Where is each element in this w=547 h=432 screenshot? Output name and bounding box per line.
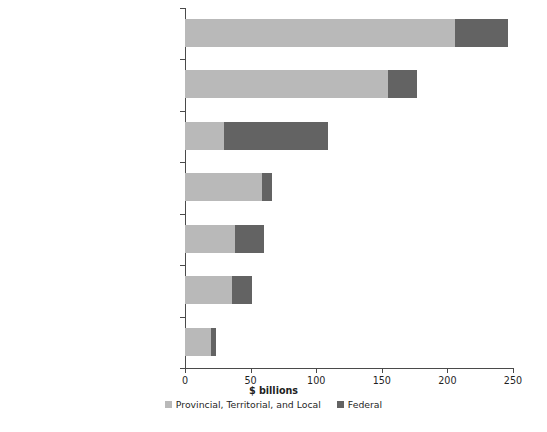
bar-segment-federal (388, 70, 417, 98)
bar-segment-federal (455, 19, 507, 47)
x-axis-line (185, 368, 513, 369)
x-axis-title: $ billions (0, 385, 547, 396)
bar-segment-provincial (185, 122, 224, 150)
chart-row: Other Expenses (185, 265, 513, 316)
legend-item-provincial[interactable]: Provincial, Territorial, and Local (165, 399, 321, 410)
chart-row: Public EmployeeCompensation (185, 8, 513, 59)
stacked-bar (185, 122, 328, 150)
x-axis-tick (447, 368, 448, 373)
bar-segment-provincial (185, 19, 455, 47)
chart-legend: Provincial, Territorial, and LocalFedera… (0, 399, 547, 410)
bar-chart: Public EmployeeCompensationCost of Gover… (0, 0, 547, 432)
bar-segment-provincial (185, 328, 211, 356)
stacked-bar (185, 19, 508, 47)
chart-row: Cost of Government Operationsand Service… (185, 59, 513, 110)
bar-segment-federal (211, 328, 216, 356)
stacked-bar (185, 328, 216, 356)
stacked-bar (185, 225, 264, 253)
bar-segment-federal (235, 225, 264, 253)
y-axis-tick (180, 317, 185, 318)
x-axis-title-label: $ billions (249, 385, 298, 396)
bar-segment-provincial (185, 276, 232, 304)
bar-segment-provincial (185, 225, 235, 253)
x-axis-tick (382, 368, 383, 373)
y-axis-tick (180, 162, 185, 163)
x-axis-tick (251, 368, 252, 373)
y-axis-tick (180, 214, 185, 215)
bar-segment-federal (262, 173, 271, 201)
chart-row: Fiscal and Social Security BenefitPaymen… (185, 111, 513, 162)
y-axis-tick (180, 111, 185, 112)
chart-row: Infrastructure Investments(capital consu… (185, 162, 513, 213)
plot-area: Public EmployeeCompensationCost of Gover… (185, 8, 513, 368)
bar-segment-federal (232, 276, 252, 304)
bar-segment-federal (224, 122, 328, 150)
legend-label: Federal (348, 399, 382, 410)
legend-label: Provincial, Territorial, and Local (176, 399, 321, 410)
legend-swatch-icon (165, 401, 172, 408)
x-axis-tick (185, 368, 186, 373)
legend-item-federal[interactable]: Federal (337, 399, 382, 410)
bar-segment-provincial (185, 173, 262, 201)
chart-row: Business Subsidies (185, 317, 513, 368)
stacked-bar (185, 276, 252, 304)
x-axis-tick (513, 368, 514, 373)
y-axis-tick (180, 8, 185, 9)
y-axis-tick (180, 59, 185, 60)
y-axis-tick (180, 265, 185, 266)
x-axis-tick (316, 368, 317, 373)
chart-row: Debt Charges (185, 214, 513, 265)
stacked-bar (185, 173, 272, 201)
legend-swatch-icon (337, 401, 344, 408)
stacked-bar (185, 70, 417, 98)
bar-segment-provincial (185, 70, 388, 98)
